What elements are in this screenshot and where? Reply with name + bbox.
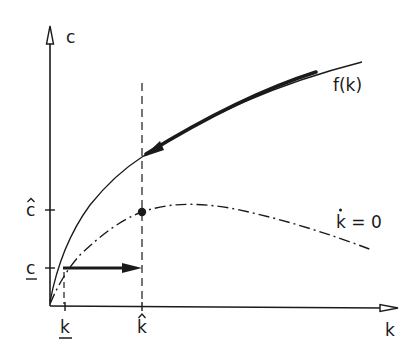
y-axis: [47, 26, 54, 306]
production-curve-label: f(k): [333, 75, 362, 95]
x-axis-label: k: [385, 320, 395, 340]
saddle-arrow-icon: [143, 141, 164, 157]
y-axis-label: c: [66, 27, 75, 47]
label-k-hat: k: [137, 314, 147, 337]
steady-state-label: k = 0: [336, 209, 382, 233]
svg-text:c: c: [26, 258, 35, 278]
dot-mark: [339, 209, 342, 212]
steady-state-curve: [50, 204, 372, 304]
x-axis: [50, 305, 398, 312]
svg-text:k: k: [60, 317, 70, 337]
svg-text:c: c: [26, 200, 35, 220]
jump-arrow-icon: [122, 263, 142, 273]
x-axis-arrow-icon: [380, 305, 398, 312]
steady-state-point: [138, 208, 146, 216]
label-c-lower: c: [26, 258, 37, 279]
label-c-hat: c: [26, 199, 35, 221]
svg-text:k = 0: k = 0: [336, 212, 382, 232]
y-axis-arrow-icon: [47, 26, 54, 44]
label-k-lower: k: [59, 317, 72, 338]
phase-diagram: c k c c k k f(k) k = 0: [0, 0, 417, 361]
svg-text:k: k: [137, 317, 147, 337]
production-curve: [50, 62, 362, 302]
